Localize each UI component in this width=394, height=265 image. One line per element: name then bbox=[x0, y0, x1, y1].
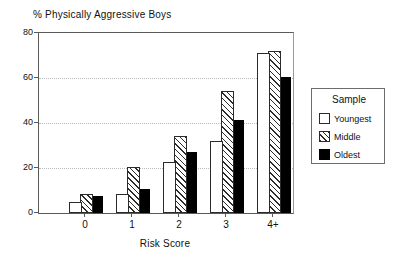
legend-item-youngest: Youngest bbox=[319, 112, 371, 125]
legend-label-middle: Middle bbox=[334, 132, 361, 142]
bar-risk1-youngest bbox=[116, 194, 129, 213]
legend-box: Sample Youngest Middle Oldest bbox=[311, 88, 385, 164]
bar-risk3-youngest bbox=[210, 141, 223, 213]
y-tick-label-0: 0 bbox=[3, 207, 33, 217]
x-tick-label-0: 0 bbox=[65, 219, 105, 230]
legend-item-oldest: Oldest bbox=[319, 148, 360, 161]
x-tick-label-2: 2 bbox=[159, 219, 199, 230]
gridline-60 bbox=[39, 78, 293, 79]
legend-swatch-middle-icon bbox=[319, 131, 330, 142]
y-tick-label-40: 40 bbox=[3, 117, 33, 127]
y-tick-label-60: 60 bbox=[3, 72, 33, 82]
bar-risk2-youngest bbox=[163, 162, 176, 213]
chart-title: % Physically Aggressive Boys bbox=[33, 9, 171, 20]
x-tick-label-3: 3 bbox=[206, 219, 246, 230]
plot-area bbox=[38, 32, 294, 214]
legend-title: Sample bbox=[312, 94, 386, 105]
x-axis-title: Risk Score bbox=[38, 238, 292, 249]
x-tick-mark-4plus bbox=[272, 213, 273, 217]
x-tick-label-4plus: 4+ bbox=[253, 219, 293, 230]
chart-figure: % Physically Aggressive Boys 80 60 40 20… bbox=[0, 0, 394, 265]
x-tick-mark-2 bbox=[178, 213, 179, 217]
x-tick-mark-1 bbox=[131, 213, 132, 217]
legend-swatch-youngest-icon bbox=[319, 113, 330, 124]
legend-swatch-oldest-icon bbox=[319, 149, 330, 160]
y-tick-label-20: 20 bbox=[3, 162, 33, 172]
gridline-40 bbox=[39, 123, 293, 124]
x-tick-mark-3 bbox=[225, 213, 226, 217]
legend-item-middle: Middle bbox=[319, 130, 361, 143]
bar-risk0-youngest bbox=[69, 202, 82, 213]
x-tick-mark-0 bbox=[84, 213, 85, 217]
y-tick-label-80: 80 bbox=[3, 27, 33, 37]
legend-label-oldest: Oldest bbox=[334, 150, 360, 160]
legend-label-youngest: Youngest bbox=[334, 114, 371, 124]
x-tick-label-1: 1 bbox=[112, 219, 152, 230]
bar-risk4plus-youngest bbox=[257, 53, 270, 213]
